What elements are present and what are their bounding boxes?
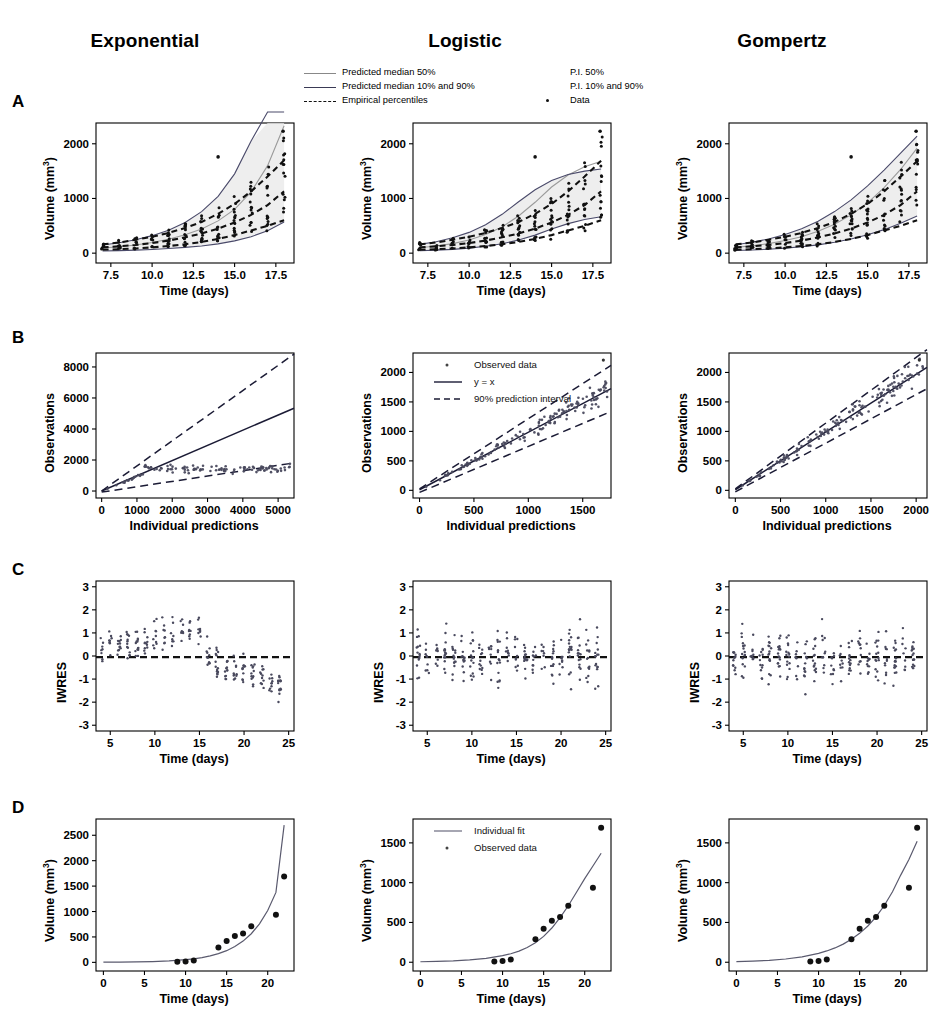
x-tick-label: 15.0 (223, 269, 245, 281)
y-tick-label: 2 (83, 604, 89, 616)
x-tick-label: 10 (496, 977, 509, 989)
column-title-exponential: Exponential (35, 30, 255, 52)
y-tick-label: 1500 (380, 396, 406, 408)
x-axis-label: Time (days) (688, 752, 945, 766)
panel-label-c: C (12, 560, 24, 580)
x-axis-label: Individual predictions (55, 519, 333, 533)
y-tick-label: 1000 (696, 877, 722, 889)
x-tick-label: 20 (238, 737, 251, 749)
legend-line-light-icon (304, 73, 336, 74)
y-tick-label: 1000 (380, 425, 406, 437)
y-axis-label: IWRES (372, 662, 386, 703)
y-tick-label: 0 (400, 247, 406, 259)
x-tick-label: 0 (732, 504, 738, 516)
x-tick-label: 10.0 (458, 269, 480, 281)
x-tick-label: 17.5 (582, 269, 605, 281)
y-tick-label: 2000 (63, 138, 89, 150)
y-tick-label: 2 (400, 604, 406, 616)
y-tick-label: -1 (79, 673, 90, 685)
x-tick-label: 4000 (230, 504, 256, 516)
x-tick-label: 10 (148, 737, 161, 749)
x-tick-label: 12.5 (182, 269, 205, 281)
y-axis-label: Volume (mm3) (358, 157, 374, 240)
x-tick-label: 15.0 (856, 269, 878, 281)
x-tick-label: 7.5 (103, 269, 120, 281)
x-tick-label: 7.5 (736, 269, 753, 281)
x-tick-label: 500 (771, 504, 790, 516)
x-tick-label: 15.0 (540, 269, 562, 281)
plot-a-logistic: 7.510.012.515.017.5010002000 (412, 122, 612, 264)
top-legend: Predicted median 50% Predicted median 10… (300, 68, 700, 114)
x-tick-label: 17.5 (265, 269, 288, 281)
legend-label: Data (570, 95, 590, 105)
x-tick-label: 20 (894, 977, 907, 989)
y-tick-label: 2000 (63, 855, 89, 867)
y-tick-label: 2000 (696, 366, 722, 378)
y-tick-label: 2000 (696, 138, 722, 150)
y-tick-label: 2 (716, 604, 722, 616)
y-tick-label: 1 (400, 627, 407, 639)
x-tick-label: 15 (537, 977, 550, 989)
x-tick-label: 10 (179, 977, 192, 989)
x-tick-label: 0 (98, 504, 104, 516)
legend-label: Empirical percentiles (342, 95, 428, 105)
x-axis-label: Individual predictions (688, 519, 945, 533)
plot-c-exponential: 510152025-3-2-10123 (95, 580, 295, 732)
y-axis-label: Volume (mm3) (674, 859, 690, 942)
y-tick-label: 1000 (696, 192, 722, 204)
x-tick-label: 12.5 (815, 269, 838, 281)
y-tick-label: -2 (79, 696, 89, 708)
y-tick-label: 1000 (696, 425, 722, 437)
y-tick-label: -3 (79, 719, 89, 731)
y-tick-label: 1000 (63, 192, 89, 204)
x-tick-label: 7.5 (420, 269, 437, 281)
x-axis-label: Time (days) (688, 992, 945, 1006)
x-tick-label: 0 (100, 977, 106, 989)
x-tick-label: 25 (599, 737, 612, 749)
x-tick-label: 5 (740, 737, 747, 749)
x-tick-label: 10.0 (774, 269, 796, 281)
y-tick-label: -2 (396, 696, 406, 708)
y-tick-label: 500 (387, 455, 406, 467)
x-tick-label: 2000 (903, 504, 929, 516)
x-tick-label: 20 (871, 737, 884, 749)
y-tick-label: 1500 (380, 837, 406, 849)
x-tick-label: 10 (465, 737, 478, 749)
x-tick-label: 500 (464, 504, 483, 516)
column-title-gompertz: Gompertz (672, 30, 892, 52)
plot-d-logistic: 05101520050010001500Individual fitObserv… (412, 818, 612, 972)
x-tick-label: 5000 (265, 504, 291, 516)
y-axis-label: Volume (mm3) (674, 157, 690, 240)
y-tick-label: 2000 (380, 366, 406, 378)
y-tick-label: 500 (387, 916, 406, 928)
legend-line-dark-icon (304, 87, 336, 88)
plot-b-exponential: 01000200030004000500002000400060008000 (95, 352, 295, 499)
x-tick-label: 5 (141, 977, 148, 989)
x-tick-label: 0 (417, 977, 423, 989)
x-tick-label: 15 (853, 977, 866, 989)
x-tick-label: 15 (220, 977, 233, 989)
x-tick-label: 10.0 (141, 269, 163, 281)
panel-label-a: A (12, 92, 24, 112)
y-tick-label: 2500 (63, 829, 89, 841)
x-axis-label: Time (days) (688, 284, 945, 298)
y-axis-label: Volume (mm3) (358, 859, 374, 942)
x-tick-label: 20 (578, 977, 591, 989)
x-tick-label: 10 (812, 977, 825, 989)
y-tick-label: -2 (712, 696, 722, 708)
y-tick-label: -3 (712, 719, 722, 731)
y-tick-label: 3 (400, 581, 406, 593)
y-tick-label: 0 (716, 956, 722, 968)
x-tick-label: 15 (510, 737, 523, 749)
y-tick-label: 3 (716, 581, 722, 593)
y-tick-label: 1 (83, 627, 90, 639)
y-tick-label: 1500 (696, 396, 722, 408)
y-tick-label: 8000 (63, 361, 89, 373)
plot-b-logistic: 0500100015000500100015002000Observed dat… (412, 352, 612, 499)
y-tick-label: 1500 (696, 837, 722, 849)
plot-c-gompertz: 510152025-3-2-10123 (728, 580, 928, 732)
y-tick-label: 1000 (380, 192, 406, 204)
inplot-legend-label: y = x (474, 376, 495, 387)
y-tick-label: 1 (716, 627, 723, 639)
inplot-legend-label: 90% prediction interval (474, 393, 571, 404)
